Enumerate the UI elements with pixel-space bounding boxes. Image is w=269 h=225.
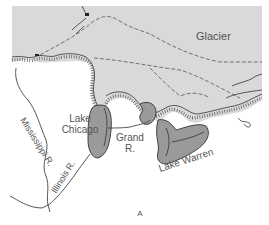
shoreline-right-lobe bbox=[238, 118, 250, 127]
label-glacier: Glacier bbox=[196, 30, 231, 42]
glacier-region bbox=[12, 6, 262, 123]
river-bottom-left bbox=[10, 196, 50, 212]
label-grand-2: R. bbox=[125, 143, 135, 154]
label-lake-chicago-2: Chicago bbox=[62, 124, 99, 135]
panel-label: A bbox=[137, 209, 143, 218]
label-lake-chicago-1: Lake bbox=[69, 113, 91, 124]
label-grand-1: Grand bbox=[116, 132, 144, 143]
dark-feature-2 bbox=[35, 54, 39, 56]
glacial-lakes-map: Glacier Lake Chicago Grand R. Lake Warre… bbox=[0, 0, 269, 225]
label-mississippi: Mississippi R. bbox=[18, 116, 56, 168]
